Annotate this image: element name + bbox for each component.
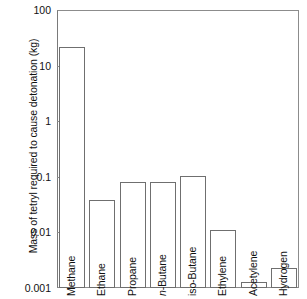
bar-label: Acetylene — [247, 251, 259, 296]
bar-series: MethaneEthanePropanen-Butaneiso-ButaneEt… — [0, 0, 307, 299]
bar-label: Methane — [65, 256, 77, 296]
bar-label: Hydrogen — [277, 251, 289, 296]
bar-label: Ethane — [95, 263, 107, 296]
bar-label: iso-Butane — [186, 247, 198, 296]
bar-label: Ethylene — [216, 256, 228, 296]
bar-methane — [59, 47, 85, 288]
bar-label: Propane — [126, 257, 138, 296]
chart-figure: Mass of tetryl required to cause detonat… — [0, 0, 307, 299]
bar-label: n-Butane — [156, 254, 168, 296]
